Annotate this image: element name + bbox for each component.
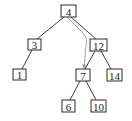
node-6: 6 <box>62 100 75 113</box>
node-7: 7 <box>76 69 90 82</box>
node-4: 4 <box>61 5 76 18</box>
tree-diagram: 4 3 12 1 7 14 6 10 <box>0 0 132 121</box>
edge-12-14 <box>101 51 111 69</box>
node-3: 3 <box>28 39 41 51</box>
edge-12-7 <box>85 51 95 69</box>
edge-4-3 <box>37 17 64 39</box>
edges <box>22 17 111 100</box>
node-label: 1 <box>17 69 23 81</box>
node-14: 14 <box>107 69 122 82</box>
edge-3-1 <box>22 50 32 69</box>
node-label: 10 <box>93 101 105 113</box>
node-label: 12 <box>93 40 104 52</box>
edge-7-10 <box>86 81 96 100</box>
node-1: 1 <box>13 69 26 81</box>
search-path-arrow <box>67 17 87 68</box>
edge-4-12 <box>71 17 96 39</box>
node-10: 10 <box>91 100 106 113</box>
node-label: 14 <box>109 70 121 82</box>
node-label: 7 <box>80 70 86 82</box>
node-12: 12 <box>90 39 107 52</box>
node-label: 4 <box>66 6 72 18</box>
node-label: 3 <box>32 39 38 51</box>
edge-7-6 <box>70 81 80 100</box>
node-label: 6 <box>66 101 72 113</box>
